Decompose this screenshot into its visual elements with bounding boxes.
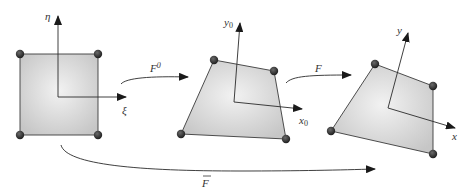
node-icon — [16, 131, 24, 139]
x0-label: x0 — [298, 114, 308, 128]
mapping-F0: F0 — [121, 61, 188, 84]
mapping-F0-label-superscript: 0 — [157, 61, 161, 70]
parent-element: ξ η — [16, 10, 127, 139]
node-icon — [210, 56, 218, 64]
eta-label: η — [45, 10, 50, 22]
node-icon — [177, 130, 185, 138]
xi-label: ξ — [122, 104, 127, 117]
mapping-F: F — [286, 62, 351, 83]
x-label: x — [451, 130, 457, 142]
node-icon — [429, 82, 437, 90]
node-icon — [327, 127, 335, 135]
parent-element-shape — [20, 54, 98, 135]
mapping-F0-label: F0 — [149, 61, 161, 74]
mapping-F0-arrow — [121, 77, 188, 84]
mapping-F-bar: F — [61, 145, 375, 189]
reference-element: x0 y0 — [177, 16, 308, 143]
node-icon — [371, 60, 379, 68]
y0-label: y0 — [223, 16, 233, 30]
node-icon — [270, 67, 278, 75]
y0-label-subscript: 0 — [229, 21, 233, 30]
node-icon — [16, 50, 24, 58]
y-label: y — [396, 24, 402, 36]
isoparametric-mapping-diagram: ξ η x0 y0 x y F0 F — [0, 0, 470, 195]
node-icon — [94, 131, 102, 139]
node-icon — [429, 150, 437, 158]
node-icon — [282, 135, 290, 143]
x0-label-subscript: 0 — [304, 119, 308, 128]
current-element: x y — [327, 24, 457, 158]
current-element-shape — [331, 64, 433, 154]
node-icon — [94, 50, 102, 58]
mapping-F-bar-arrow — [61, 145, 375, 171]
mapping-F-arrow — [286, 75, 351, 83]
mapping-F-label: F — [314, 62, 322, 74]
mapping-F-bar-label: F — [201, 177, 209, 189]
